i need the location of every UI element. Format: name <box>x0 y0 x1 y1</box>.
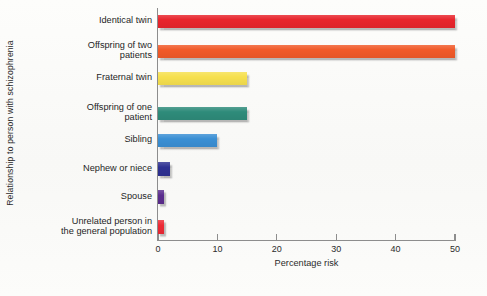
x-axis-tick <box>454 234 455 241</box>
x-axis-line <box>157 240 455 241</box>
x-axis-tick-label: 20 <box>272 244 282 254</box>
bar <box>158 134 217 147</box>
x-axis-tick-label: 30 <box>331 244 341 254</box>
bar <box>158 162 170 176</box>
plot-area: 01020304050 <box>158 8 455 240</box>
bar <box>158 190 164 204</box>
x-axis-tick-label: 40 <box>391 244 401 254</box>
y-axis-line <box>157 8 158 240</box>
bar <box>158 72 247 85</box>
x-axis-tick <box>336 234 337 241</box>
bar <box>158 220 164 234</box>
category-label: Offspring of two patients <box>2 40 152 61</box>
x-axis-tick <box>217 234 218 241</box>
bar <box>158 107 247 120</box>
chart-figure: Relationship to person with schizophreni… <box>0 0 487 296</box>
x-axis-tick-label: 10 <box>212 244 222 254</box>
category-label: Spouse <box>2 191 152 202</box>
bar <box>158 45 455 58</box>
x-axis-tick-label: 0 <box>155 244 160 254</box>
x-axis-tick-label: 50 <box>450 244 460 254</box>
x-axis-tick <box>395 234 396 241</box>
category-label: Fraternal twin <box>2 72 152 83</box>
category-label: Sibling <box>2 134 152 145</box>
category-label-group: Identical twinOffspring of two patientsF… <box>0 8 152 240</box>
bar <box>158 15 455 28</box>
x-axis-tick <box>276 234 277 241</box>
category-label: Identical twin <box>2 15 152 26</box>
category-label: Offspring of one patient <box>2 102 152 123</box>
category-label: Unrelated person in the general populati… <box>2 216 152 237</box>
x-axis-tick <box>157 234 158 241</box>
category-label: Nephew or niece <box>2 163 152 174</box>
x-axis-title: Percentage risk <box>158 258 455 268</box>
